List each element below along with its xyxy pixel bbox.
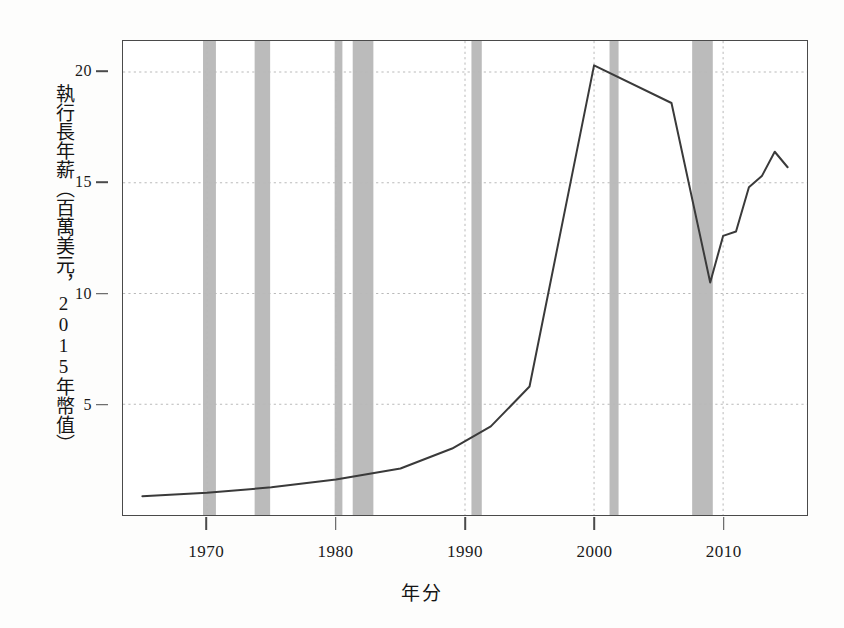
x-tick-mark [335, 517, 337, 530]
x-axis-title: 年分 [0, 578, 844, 605]
y-tick-label: 5 [84, 396, 93, 414]
y-tick-label: 10 [75, 285, 92, 303]
recession-band [471, 41, 481, 515]
x-tick-label: 2000 [576, 542, 612, 562]
x-tick-label: 1990 [447, 542, 483, 562]
y-tick-label: 15 [75, 173, 92, 191]
recession-band [610, 41, 619, 515]
x-tick-mark [723, 517, 725, 530]
plot-canvas [123, 41, 807, 515]
recession-bands [203, 41, 713, 515]
y-tick-mark [96, 404, 108, 406]
x-axis: 年分 19701980199020002010 [0, 516, 844, 628]
x-tick-label: 1970 [188, 542, 224, 562]
series-line-ceo-pay [142, 65, 787, 496]
y-tick-mark [96, 70, 108, 72]
recession-band [203, 41, 216, 515]
recession-band [255, 41, 270, 515]
recession-band [353, 41, 374, 515]
x-tick-mark [594, 517, 596, 530]
y-tick-label: 20 [75, 62, 92, 80]
x-tick-label: 1980 [318, 542, 354, 562]
x-tick-mark [205, 517, 207, 530]
y-axis-title: 執行長年薪（百萬美元，2015年幣值） [30, 58, 74, 478]
y-tick-mark [96, 182, 108, 184]
x-tick-label: 2010 [706, 542, 742, 562]
chart-figure: 執行長年薪（百萬美元，2015年幣值） 5101520 年分 197019801… [0, 0, 844, 628]
plot-area [122, 40, 808, 516]
x-tick-mark [464, 517, 466, 530]
y-tick-mark [96, 293, 108, 295]
